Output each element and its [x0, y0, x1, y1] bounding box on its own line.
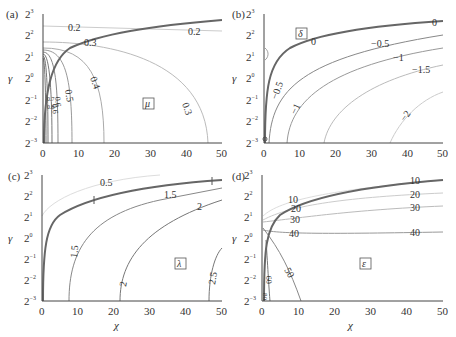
- svg-text:0: 0: [40, 147, 46, 159]
- svg-text:30: 30: [365, 305, 377, 317]
- y-axis-label: γ: [232, 72, 237, 84]
- svg-text:2−3: 2−3: [24, 295, 36, 307]
- x-axis-label: χ: [347, 319, 354, 331]
- svg-text:40: 40: [180, 305, 192, 317]
- svg-text:50: 50: [216, 147, 228, 159]
- contour-label: 0.3: [84, 37, 97, 48]
- panel-a: (a) γ 0.2 0.2 0.3 0.3 0.4 0.5 0.6 0.6 0.…: [6, 8, 228, 159]
- y-axis-label: γ: [232, 232, 237, 244]
- contour-label: 0.5: [100, 177, 113, 188]
- svg-text:2−3: 2−3: [246, 137, 258, 149]
- svg-text:22: 22: [24, 190, 33, 202]
- svg-text:30: 30: [144, 305, 156, 317]
- panel-b: (b) γ 0 0 −0.5 −1 −1.5 −0.5 −1 −2 δ 23 2…: [232, 8, 449, 159]
- contour-label: 0.7: [47, 96, 55, 102]
- contour-label: 10: [410, 175, 420, 186]
- contour-lines: [43, 26, 222, 143]
- panel-d: (d) γ 10 20 30 40 10 20 30 40 50 60 80 ε…: [232, 169, 449, 331]
- contour-label: 2: [117, 281, 129, 288]
- svg-text:50: 50: [216, 305, 228, 317]
- svg-text:2−3: 2−3: [25, 137, 37, 149]
- svg-text:10: 10: [294, 147, 306, 159]
- contour-label: −2: [398, 108, 413, 123]
- svg-text:30: 30: [366, 147, 378, 159]
- contour-label: 0.5: [63, 88, 76, 102]
- contour-label: 30: [410, 202, 420, 213]
- x-ticks: 0 10 20 30 40 50: [39, 305, 228, 317]
- y-ticks: 23 22 21 20 2−1 2−2 2−3: [25, 8, 37, 149]
- contour-label: −1.5: [412, 64, 430, 75]
- contour-label: 0.4: [88, 75, 103, 91]
- svg-text:21: 21: [24, 211, 33, 223]
- svg-text:20: 20: [108, 305, 120, 317]
- contour-label: 0.2: [68, 22, 81, 33]
- contour-label: 20: [291, 203, 301, 214]
- y-ticks: 23 22 21 20 2−1 2−2 2−3: [24, 169, 36, 307]
- svg-text:22: 22: [244, 190, 253, 202]
- svg-text:40: 40: [401, 305, 413, 317]
- svg-text:20: 20: [24, 232, 33, 244]
- svg-text:20: 20: [329, 305, 341, 317]
- svg-text:21: 21: [244, 211, 253, 223]
- svg-text:23: 23: [244, 169, 253, 181]
- panel-c: (c) γ 0.5 1.5 2 1.5 2 2.5 λ 23 22 21 20 …: [8, 169, 228, 331]
- svg-text:23: 23: [24, 169, 33, 181]
- contour-label: 2.5: [206, 271, 219, 285]
- svg-text:22: 22: [25, 29, 34, 41]
- contour-lines: [265, 35, 443, 143]
- svg-text:21: 21: [246, 51, 255, 63]
- contour-label: −0.5: [371, 38, 389, 49]
- contour-label: −1: [288, 102, 302, 116]
- svg-text:0: 0: [39, 305, 45, 317]
- x-ticks: 0 10 20 30 40 50: [259, 305, 449, 317]
- contour-label: 0.2: [188, 26, 201, 37]
- svg-text:2−2: 2−2: [244, 274, 256, 286]
- svg-text:50: 50: [437, 305, 449, 317]
- svg-text:40: 40: [402, 147, 414, 159]
- svg-text:20: 20: [109, 147, 121, 159]
- svg-text:20: 20: [246, 72, 255, 84]
- svg-text:2−1: 2−1: [244, 253, 256, 265]
- svg-text:0: 0: [259, 305, 265, 317]
- symbol-lambda: λ: [176, 258, 182, 269]
- contour-lines: [42, 175, 222, 301]
- contour-label: 0.8: [47, 104, 55, 110]
- contour-label: 0.3: [180, 101, 195, 117]
- x-ticks: 0 10 20 30 40 50: [40, 147, 228, 159]
- thick-boundary-curve: [44, 20, 222, 143]
- svg-text:2−1: 2−1: [24, 253, 36, 265]
- svg-text:10: 10: [72, 305, 84, 317]
- svg-text:2−3: 2−3: [244, 295, 256, 307]
- contour-figure: (a) γ 0.2 0.2 0.3 0.3 0.4 0.5 0.6 0.6 0.…: [0, 0, 456, 337]
- svg-text:23: 23: [246, 8, 255, 20]
- contour-label: 40: [410, 227, 420, 238]
- svg-text:10: 10: [293, 305, 305, 317]
- contour-label: 1.5: [164, 189, 177, 200]
- x-axis-label: χ: [113, 319, 120, 331]
- contour-label: 20: [410, 189, 420, 200]
- svg-text:23: 23: [25, 8, 34, 20]
- svg-text:40: 40: [181, 147, 193, 159]
- y-ticks: 23 22 21 20 2−1 2−2 2−3: [244, 169, 256, 307]
- panel-label: (a): [6, 8, 19, 21]
- symbol-delta: δ: [298, 28, 303, 39]
- svg-text:2−2: 2−2: [246, 115, 258, 127]
- svg-text:2−1: 2−1: [246, 94, 258, 106]
- contour-label: 2: [197, 201, 202, 212]
- contour-label: −1: [393, 52, 404, 63]
- contour-label: 40: [289, 228, 299, 239]
- svg-text:21: 21: [25, 51, 34, 63]
- svg-text:2−1: 2−1: [25, 94, 37, 106]
- contour-label: 30: [290, 214, 300, 225]
- svg-text:50: 50: [437, 147, 449, 159]
- y-axis-label: γ: [8, 232, 13, 244]
- y-axis-label: γ: [8, 72, 13, 84]
- svg-text:2−2: 2−2: [25, 115, 37, 127]
- x-ticks: 0 10 20 30 40 50: [261, 147, 449, 159]
- contour-label: 50: [282, 266, 297, 280]
- svg-text:0: 0: [261, 147, 267, 159]
- y-ticks: 23 22 21 20 2−1 2−2 2−3: [246, 8, 258, 149]
- symbol-mu: μ: [144, 98, 150, 109]
- svg-text:20: 20: [25, 72, 34, 84]
- panel-label: (c): [8, 170, 21, 183]
